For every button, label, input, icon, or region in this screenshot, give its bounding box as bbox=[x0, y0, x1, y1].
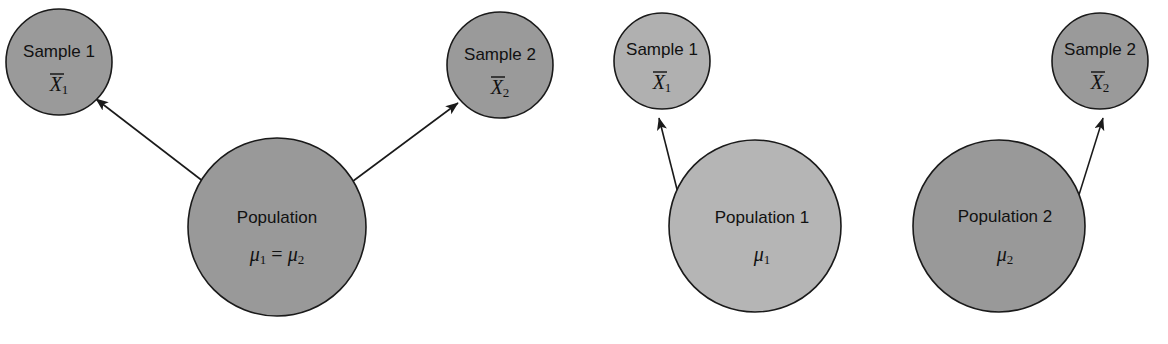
sample-circle[interactable] bbox=[6, 9, 112, 115]
mu-base: μ bbox=[753, 243, 764, 266]
node-sample-1[interactable]: Sample 1 X1 bbox=[6, 9, 112, 115]
panel-one-population: Sample 1 X1 Sample 2 X2 Population μ1 = … bbox=[6, 9, 553, 316]
population-mu-expression: μ1 = μ2 bbox=[249, 243, 304, 267]
panel-population-two: Population 2 μ2 Sample 2 X2 bbox=[913, 13, 1148, 312]
figure-canvas: Sample 1 X1 Sample 2 X2 Population μ1 = … bbox=[0, 0, 1168, 344]
population-2-label: Population 2 bbox=[958, 207, 1053, 226]
node-population[interactable]: Population μ1 = μ2 bbox=[188, 138, 366, 316]
symbol-subscript: 1 bbox=[665, 80, 672, 95]
mu-base: μ bbox=[996, 243, 1007, 266]
symbol-base: X bbox=[49, 73, 63, 95]
sample-2-label: Sample 2 bbox=[464, 45, 536, 64]
symbol-subscript: 2 bbox=[503, 85, 510, 100]
population-label: Population bbox=[237, 208, 317, 227]
node-population-2[interactable]: Population 2 μ2 bbox=[913, 140, 1085, 312]
node-sample-2b[interactable]: Sample 2 X2 bbox=[1052, 13, 1148, 109]
symbol-subscript: 2 bbox=[1103, 80, 1110, 95]
symbol-base: X bbox=[490, 76, 504, 98]
sample-1-label: Sample 1 bbox=[23, 42, 95, 61]
mu-subscript: 2 bbox=[1007, 252, 1014, 267]
node-population-1[interactable]: Population 1 μ1 bbox=[669, 140, 841, 312]
mu-1-base: μ bbox=[249, 243, 260, 266]
symbol-base: X bbox=[1090, 71, 1104, 93]
population-1-label: Population 1 bbox=[715, 208, 810, 227]
arrow-line bbox=[337, 103, 458, 193]
sample-circle[interactable] bbox=[1052, 13, 1148, 109]
sample-2-label: Sample 2 bbox=[1064, 40, 1136, 59]
arrow-population-to-sample-2 bbox=[337, 103, 458, 193]
equals-sign: = bbox=[266, 243, 287, 265]
mu-2-subscript: 2 bbox=[298, 252, 305, 267]
node-sample-1b[interactable]: Sample 1 X1 bbox=[614, 13, 710, 109]
sample-1-label: Sample 1 bbox=[626, 40, 698, 59]
mu-2-base: μ bbox=[287, 243, 298, 266]
symbol-base: X bbox=[652, 71, 666, 93]
arrow-population-to-sample-1 bbox=[96, 99, 217, 192]
sample-circle[interactable] bbox=[447, 12, 553, 118]
symbol-subscript: 1 bbox=[62, 82, 69, 97]
arrow-line bbox=[96, 99, 217, 192]
node-sample-2[interactable]: Sample 2 X2 bbox=[447, 12, 553, 118]
sample-circle[interactable] bbox=[614, 13, 710, 109]
sampling-diagram-figure: Sample 1 X1 Sample 2 X2 Population μ1 = … bbox=[0, 0, 1168, 344]
mu-subscript: 1 bbox=[764, 252, 771, 267]
panel-population-one: Population 1 μ1 Sample 1 X1 bbox=[614, 13, 841, 312]
